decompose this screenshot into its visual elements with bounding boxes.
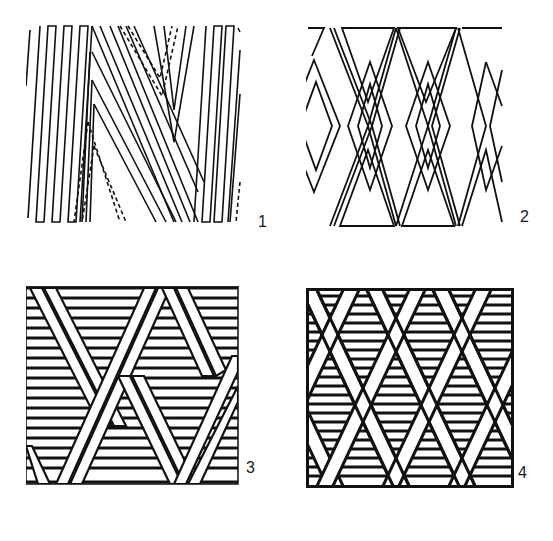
panel-label-4: 4 <box>518 465 527 481</box>
panel-label-2: 2 <box>520 209 529 225</box>
pattern-panel-3 <box>26 286 240 486</box>
interlaced-diamonds-drawing <box>306 26 506 228</box>
pattern-panel-4 <box>306 288 516 490</box>
panel-label-3: 3 <box>246 460 255 476</box>
diagonal-bands-hatching-drawing <box>26 286 240 486</box>
chevron-strands-drawing <box>26 22 244 232</box>
pattern-panel-1 <box>26 22 244 232</box>
lattice-bands-drawing <box>306 288 516 490</box>
pattern-panel-2 <box>306 26 506 228</box>
panel-label-1: 1 <box>258 214 267 230</box>
